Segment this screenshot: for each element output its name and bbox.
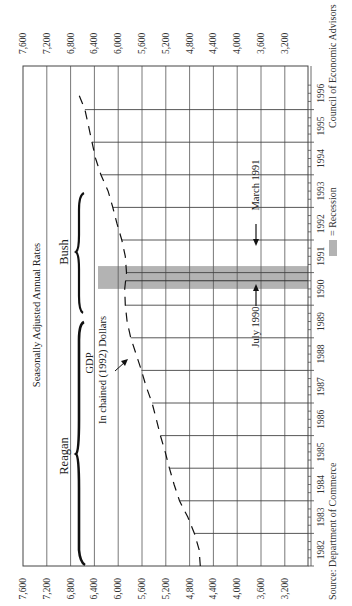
july-1990-label: July 1990 [250, 306, 261, 347]
year-tick-label: 1988 [316, 344, 326, 363]
value-tick-label: 7,200 [42, 578, 52, 600]
gdp-sub-label: In chained (1992) Dollars [97, 316, 109, 424]
recession-rect [98, 266, 308, 289]
value-axis-bottom-ticks: 7,6007,2006,8006,4006,0005,6005,2004,800… [18, 578, 290, 600]
legend-label: = Recession [327, 187, 338, 236]
value-tick-label: 3,200 [280, 578, 290, 600]
value-tick-label: 6,800 [66, 578, 76, 600]
value-axis-top-ticks: 7,6007,2006,8006,4006,0005,6005,2004,800… [18, 32, 290, 54]
march-1991-label: March 1991 [250, 159, 261, 210]
value-tick-label: 3,600 [256, 578, 266, 600]
bush-label: Bush [57, 238, 71, 264]
source-label: Source: Department of Commerce [327, 462, 338, 600]
reagan-label: Reagan [57, 437, 71, 475]
credit-label: Council of Economic Advisors [327, 4, 338, 128]
value-tick-label: 5,600 [137, 578, 147, 600]
legend-swatch [329, 240, 337, 256]
year-tick-label: 1986 [316, 410, 326, 429]
recession-band [98, 266, 308, 289]
value-tick-label: 5,200 [161, 578, 171, 600]
year-axis: 1982198319841985198619871988198919901991… [308, 66, 326, 566]
value-tick-label: 7,600 [18, 578, 28, 600]
value-tick-label: 6,400 [89, 32, 99, 54]
year-tick-label: 1985 [316, 442, 326, 461]
year-tick-label: 1982 [316, 540, 326, 559]
year-tick-label: 1992 [316, 214, 326, 233]
year-tick-label: 1993 [316, 181, 326, 200]
value-tick-label: 4,000 [232, 578, 242, 600]
year-tick-label: 1996 [316, 84, 326, 103]
bush-brace-icon [76, 193, 84, 313]
value-tick-label: 6,000 [113, 32, 123, 54]
value-tick-label: 4,800 [185, 32, 195, 54]
grid-lines [47, 66, 308, 566]
year-tick-label: 1984 [316, 475, 326, 494]
value-tick-label: 5,600 [137, 32, 147, 54]
value-tick-label: 4,000 [232, 32, 242, 54]
value-tick-label: 7,600 [18, 32, 28, 54]
year-tick-label: 1991 [316, 247, 326, 266]
value-tick-label: 3,600 [256, 32, 266, 54]
value-tick-label: 3,200 [280, 32, 290, 54]
value-tick-label: 6,000 [113, 578, 123, 600]
gdp-label: GDP [84, 352, 95, 373]
value-tick-label: 6,400 [89, 578, 99, 600]
year-tick-label: 1994 [316, 149, 326, 168]
value-tick-label: 4,400 [208, 578, 218, 600]
chart-title: Seasonally Adjusted Annual Rates [31, 243, 42, 387]
value-tick-label: 4,400 [208, 32, 218, 54]
year-tick-label: 1995 [316, 116, 326, 135]
year-tick-label: 1990 [316, 279, 326, 298]
gdp-chart: 7,6007,2006,8006,4006,0005,6005,2004,800… [0, 0, 352, 606]
value-tick-label: 6,800 [66, 32, 76, 54]
value-tick-label: 7,200 [42, 32, 52, 54]
year-tick-label: 1989 [316, 312, 326, 331]
value-tick-label: 4,800 [185, 578, 195, 600]
march-arrowhead-icon [253, 239, 259, 246]
year-tick-label: 1983 [316, 507, 326, 526]
value-tick-label: 5,200 [161, 32, 171, 54]
year-tick-label: 1987 [316, 377, 326, 396]
